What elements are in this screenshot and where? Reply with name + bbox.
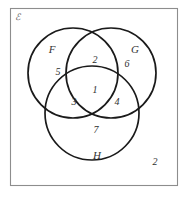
region-count-f-g-h: 1 xyxy=(93,85,98,95)
region-count-f-only: 5 xyxy=(56,67,61,77)
set-label-h: H xyxy=(93,150,101,161)
region-count-f-and-g: 2 xyxy=(93,55,98,65)
region-count-f-and-h: 3 xyxy=(72,97,77,107)
set-circle-g xyxy=(66,28,156,118)
region-count-outside: 2 xyxy=(153,157,158,167)
region-count-h-only: 7 xyxy=(94,125,99,135)
region-count-g-only: 6 xyxy=(125,59,130,69)
set-label-g: G xyxy=(131,44,139,55)
set-label-f: F xyxy=(49,44,56,55)
universal-set-label: ℰ xyxy=(15,13,20,22)
venn-diagram-canvas xyxy=(0,0,188,198)
region-count-g-and-h: 4 xyxy=(115,97,120,107)
venn-diagram-figure: ℰ F G H 5 2 6 3 1 4 7 2 xyxy=(0,0,188,198)
